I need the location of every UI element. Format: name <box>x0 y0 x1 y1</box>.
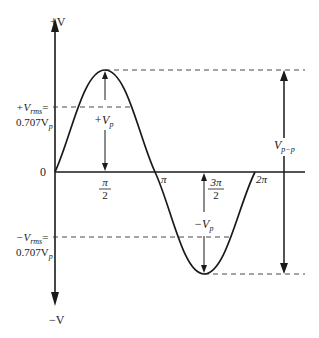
y-bottom-label: −V <box>49 313 65 327</box>
sine-wave-diagram: +V −V 0 +Vp −Vp Vp−p π 2 π <box>0 0 319 338</box>
svg-text:+Vrms=: +Vrms= <box>16 101 48 116</box>
neg-rms-label: −Vrms= 0.707Vp <box>16 231 53 261</box>
svg-text:3π: 3π <box>209 176 222 188</box>
svg-text:0.707Vp: 0.707Vp <box>16 116 53 131</box>
origin-label: 0 <box>40 165 46 179</box>
svg-text:π: π <box>102 176 108 188</box>
tick-3pi-over-2: 3π 2 <box>208 176 224 201</box>
y-top-label: +V <box>50 15 66 29</box>
peak-to-peak-label: Vp−p <box>274 138 295 154</box>
svg-text:0.707Vp: 0.707Vp <box>16 246 53 261</box>
pos-peak-label: +Vp <box>94 113 113 129</box>
y-axis <box>51 18 59 306</box>
svg-text:−Vrms=: −Vrms= <box>16 231 48 246</box>
svg-text:2: 2 <box>213 189 219 201</box>
tick-pi-over-2: π 2 <box>99 176 111 201</box>
tick-pi: π <box>161 173 167 185</box>
arrow-down-icon <box>51 292 59 306</box>
svg-text:2: 2 <box>102 189 108 201</box>
tick-2pi: 2π <box>256 173 268 185</box>
pos-rms-label: +Vrms= 0.707Vp <box>16 101 53 131</box>
neg-peak-label: −Vp <box>194 217 213 233</box>
